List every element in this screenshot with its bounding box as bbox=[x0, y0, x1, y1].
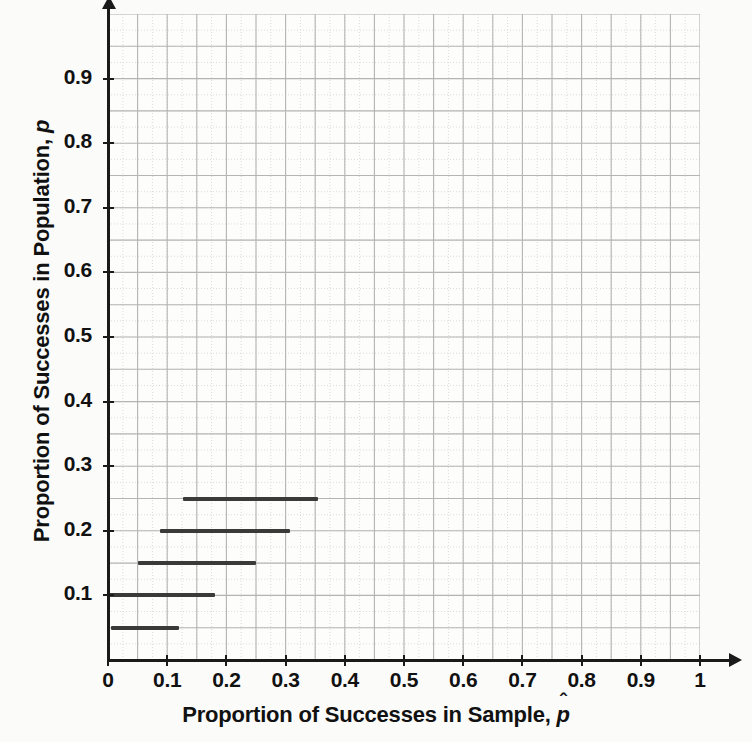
hat-accent: ˆ bbox=[557, 689, 570, 713]
confidence-interval-segment bbox=[111, 626, 179, 630]
x-axis-tick bbox=[699, 655, 701, 666]
confidence-interval-segment bbox=[160, 529, 290, 533]
y-axis-tick bbox=[103, 142, 114, 144]
y-axis-line bbox=[107, 8, 110, 660]
chart-figure: 00.10.20.30.40.50.60.70.80.91 0.10.20.30… bbox=[0, 0, 752, 742]
y-axis-title-text: Proportion of Successes in Population, bbox=[29, 133, 54, 542]
y-axis-arrow-icon bbox=[102, 0, 116, 9]
p-population-symbol: p bbox=[29, 120, 54, 133]
x-axis-tick bbox=[640, 655, 642, 666]
y-axis-tick bbox=[103, 271, 114, 273]
x-axis-tick bbox=[462, 655, 464, 666]
y-axis-tick bbox=[103, 530, 114, 532]
x-axis-tick bbox=[344, 655, 346, 666]
y-axis-tick bbox=[103, 401, 114, 403]
y-axis-tick bbox=[103, 336, 114, 338]
x-axis-tick bbox=[107, 655, 109, 666]
y-axis-tick bbox=[103, 78, 114, 80]
confidence-interval-segment bbox=[108, 593, 215, 597]
y-axis-tick bbox=[103, 465, 114, 467]
y-axis-title: Proportion of Successes in Population, p bbox=[29, 21, 55, 641]
confidence-interval-segment bbox=[183, 497, 318, 501]
x-axis-title-text: Proportion of Successes in Sample, bbox=[182, 702, 556, 727]
x-axis-tick bbox=[581, 655, 583, 666]
x-axis-tick-label: 1 bbox=[665, 668, 735, 692]
x-axis-tick bbox=[225, 655, 227, 666]
confidence-interval-segment bbox=[138, 561, 256, 565]
x-axis-tick bbox=[166, 655, 168, 666]
x-axis-tick bbox=[403, 655, 405, 666]
x-axis-tick bbox=[285, 655, 287, 666]
x-axis-tick bbox=[521, 655, 523, 666]
x-axis-title: Proportion of Successes in Sample, ˆp bbox=[0, 702, 752, 728]
y-axis-tick bbox=[103, 207, 114, 209]
y-axis-tick bbox=[103, 594, 114, 596]
plot-area bbox=[108, 14, 700, 660]
p-hat-symbol: ˆp bbox=[557, 702, 570, 728]
x-axis-arrow-icon bbox=[729, 653, 742, 667]
